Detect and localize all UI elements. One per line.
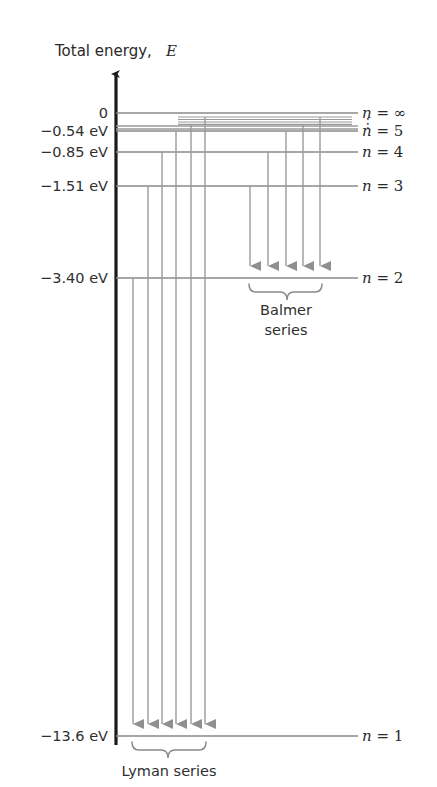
n-label-n-4: n = 4 xyxy=(362,143,403,161)
energy-label-n-5: −0.54 eV xyxy=(40,123,108,139)
energy-labels-group: 0 −0.54 eV −0.85 eV −1.51 eV −3.40 eV −1… xyxy=(40,105,108,744)
lyman-series-transitions xyxy=(133,117,205,724)
balmer-series-transitions xyxy=(250,117,320,266)
lyman-brace xyxy=(132,742,206,758)
diagram-canvas: Total energy, E 0 −0.54 eV − xyxy=(0,0,437,787)
energy-label-n-infinity: 0 xyxy=(99,105,108,121)
balmer-series-label-line1: Balmer xyxy=(260,302,312,318)
n-label-n-5: n = 5 xyxy=(362,122,403,140)
balmer-series-label-line2: series xyxy=(265,322,308,338)
quantum-number-labels-group: n = ∞ ⋮ n = 5 n = 4 n = 3 n = 2 n = 1 xyxy=(361,104,406,745)
converging-levels-group xyxy=(116,117,358,129)
balmer-brace xyxy=(249,284,322,300)
energy-label-n-2: −3.40 eV xyxy=(40,270,108,286)
level-lines-group xyxy=(116,113,358,736)
axis-title-text: Total energy, xyxy=(54,42,152,60)
energy-label-n-4: −0.85 eV xyxy=(40,144,108,160)
energy-label-n-1: −13.6 eV xyxy=(40,728,108,744)
energy-level-diagram-figure: Total energy, E 0 −0.54 eV − xyxy=(0,0,437,787)
n-label-n-1: n = 1 xyxy=(362,727,403,745)
lyman-series-label: Lyman series xyxy=(121,763,216,779)
n-label-n-3: n = 3 xyxy=(362,177,403,195)
axis-title-symbol: E xyxy=(165,42,177,60)
n-label-n-2: n = 2 xyxy=(362,269,403,287)
lyman-series-annotation: Lyman series xyxy=(121,742,216,779)
balmer-series-annotation: Balmer series xyxy=(249,284,322,338)
energy-label-n-3: −1.51 eV xyxy=(40,178,108,194)
